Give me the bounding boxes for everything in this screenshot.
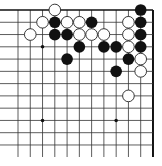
black-stone[interactable] <box>49 16 61 28</box>
black-stone[interactable] <box>135 29 147 41</box>
black-stone[interactable] <box>110 41 122 53</box>
black-stone[interactable] <box>49 29 61 41</box>
white-stone[interactable] <box>98 29 110 41</box>
black-stone[interactable] <box>123 53 135 65</box>
star-point <box>41 45 45 49</box>
white-stone[interactable] <box>135 53 147 65</box>
white-stone[interactable] <box>123 90 135 102</box>
star-point <box>114 119 118 123</box>
white-stone[interactable] <box>123 16 135 28</box>
black-stone[interactable] <box>61 29 73 41</box>
white-stone[interactable] <box>37 16 49 28</box>
white-stone[interactable] <box>123 29 135 41</box>
go-board <box>0 0 162 166</box>
black-stone[interactable] <box>86 16 98 28</box>
white-stone[interactable] <box>61 16 73 28</box>
black-stone[interactable] <box>98 41 110 53</box>
white-stone[interactable] <box>86 29 98 41</box>
white-stone[interactable] <box>123 41 135 53</box>
black-stone[interactable] <box>110 66 122 78</box>
white-stone[interactable] <box>49 4 61 16</box>
white-stone[interactable] <box>74 29 86 41</box>
black-stone[interactable] <box>135 4 147 16</box>
white-stone[interactable] <box>135 66 147 78</box>
black-stone[interactable] <box>61 53 73 65</box>
black-stone[interactable] <box>74 41 86 53</box>
black-stone[interactable] <box>135 41 147 53</box>
black-stone[interactable] <box>135 16 147 28</box>
white-stone[interactable] <box>24 29 36 41</box>
star-point <box>41 119 45 123</box>
white-stone[interactable] <box>74 16 86 28</box>
